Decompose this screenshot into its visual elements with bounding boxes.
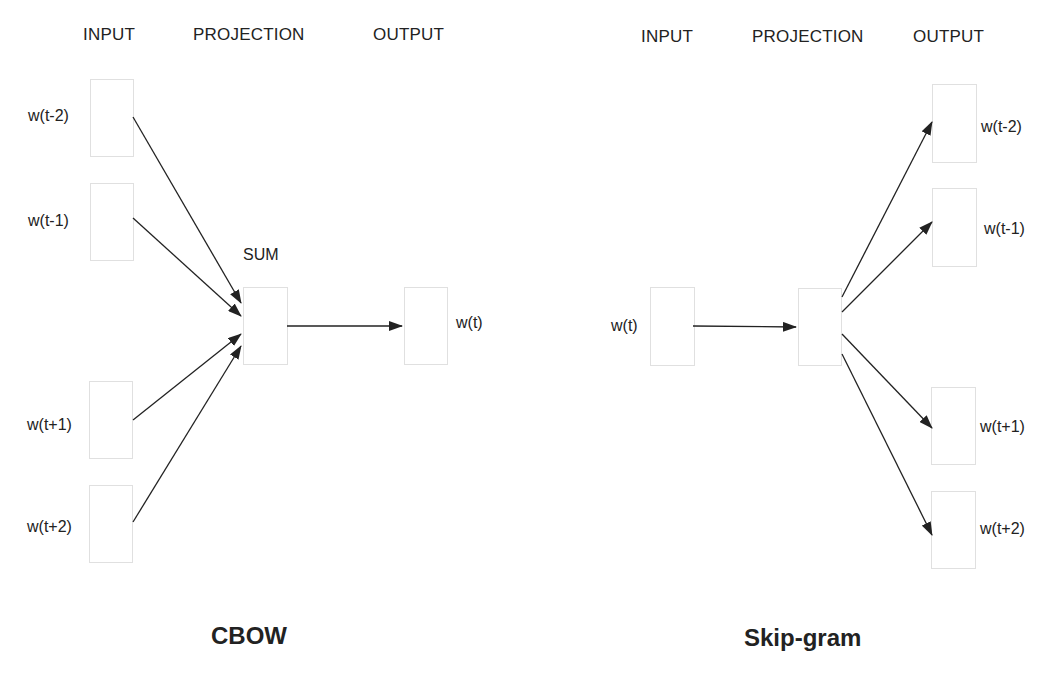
cbow-arrow-2 [133, 218, 241, 316]
skipgram-arrow-in [693, 326, 796, 327]
word2vec-diagram: INPUT PROJECTION OUTPUT w(t-2) w(t-1) w(… [0, 0, 1060, 691]
skipgram-arrow-2 [842, 222, 932, 312]
skipgram-arrow-1 [842, 122, 932, 297]
cbow-arrow-1 [133, 117, 241, 303]
arrows-layer [0, 0, 1060, 691]
cbow-arrow-3 [133, 334, 241, 420]
cbow-arrow-4 [133, 346, 241, 522]
